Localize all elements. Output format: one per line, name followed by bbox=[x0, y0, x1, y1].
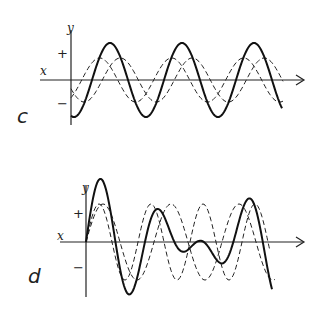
plus-sign: + bbox=[73, 206, 84, 221]
panel-label: d bbox=[28, 264, 41, 288]
minus-sign: − bbox=[73, 260, 84, 275]
x-axis-label: x bbox=[57, 229, 64, 243]
panel-label: c bbox=[17, 104, 28, 128]
panel-d: y x + − d bbox=[28, 179, 304, 297]
y-axis-label: y bbox=[66, 21, 74, 35]
resultant-wave bbox=[86, 179, 272, 295]
x-axis-label: x bbox=[40, 64, 47, 78]
panel-c: y x + − c bbox=[17, 21, 304, 128]
y-axis-label: y bbox=[81, 181, 89, 195]
plus-sign: + bbox=[57, 46, 68, 61]
minus-sign: − bbox=[57, 96, 68, 111]
figure: y x + − c y x + − d bbox=[0, 0, 322, 331]
